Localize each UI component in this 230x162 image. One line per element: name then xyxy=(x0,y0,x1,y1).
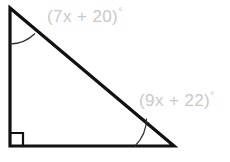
degree-symbol-icon: ° xyxy=(118,6,122,17)
top-angle-expression: (7x + 20) xyxy=(47,7,118,26)
degree-symbol-icon: ° xyxy=(210,90,214,101)
geometry-figure: (7x + 20)° (9x + 22)° xyxy=(0,0,230,162)
top-angle-label: (7x + 20)° xyxy=(47,7,122,25)
triangle-outline xyxy=(10,8,174,146)
bottom-right-angle-expression: (9x + 22) xyxy=(139,91,210,110)
right-angle-mark xyxy=(10,133,23,146)
top-left-angle-arc xyxy=(10,34,35,45)
bottom-right-angle-label: (9x + 22)° xyxy=(139,91,214,109)
